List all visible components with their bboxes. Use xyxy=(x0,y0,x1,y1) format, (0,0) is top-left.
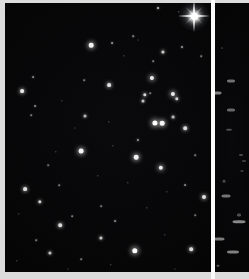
spectral-mark xyxy=(241,170,244,172)
star-point xyxy=(18,213,19,214)
star-point xyxy=(132,248,137,253)
star-point xyxy=(132,35,134,37)
star-point xyxy=(137,39,138,40)
star-point xyxy=(189,247,193,251)
spectral-mark xyxy=(217,265,220,267)
star-point xyxy=(142,100,145,103)
star-point xyxy=(38,200,41,203)
star-point xyxy=(149,92,151,94)
star-point xyxy=(97,175,98,176)
spectral-mark xyxy=(242,160,246,162)
star-point xyxy=(89,43,94,48)
star-point xyxy=(110,264,111,265)
spectral-mark xyxy=(223,180,226,183)
star-point xyxy=(152,120,157,125)
star-point xyxy=(108,121,109,122)
spectral-mark xyxy=(233,220,246,223)
spectral-mark xyxy=(237,213,241,216)
star-point xyxy=(16,260,17,261)
star-point xyxy=(84,115,87,118)
star-point xyxy=(61,100,62,101)
star-point xyxy=(146,207,147,208)
star-point xyxy=(123,55,124,56)
star-point xyxy=(164,234,165,235)
spectral-mark xyxy=(227,80,235,83)
star-point xyxy=(80,258,82,260)
spectral-mark xyxy=(215,237,225,240)
star-point xyxy=(32,76,34,78)
star-point xyxy=(181,46,183,48)
star-point xyxy=(67,268,68,269)
star-point xyxy=(114,220,116,222)
star-core xyxy=(191,13,198,20)
star-point xyxy=(99,236,102,239)
star-point xyxy=(58,184,60,186)
star-point xyxy=(166,191,167,192)
star-point xyxy=(157,7,159,9)
spectrum-strip-panel xyxy=(215,3,249,272)
star-point xyxy=(202,195,206,199)
spectral-mark xyxy=(222,195,231,198)
spectral-mark xyxy=(221,47,223,49)
star-point xyxy=(30,114,32,116)
star-point xyxy=(47,164,49,166)
star-point xyxy=(134,155,139,160)
star-point xyxy=(175,97,178,100)
star-point xyxy=(71,215,73,217)
star-point xyxy=(194,214,196,216)
star-point xyxy=(171,92,175,96)
star-point xyxy=(183,126,187,130)
star-point xyxy=(152,60,154,62)
spectral-mark xyxy=(227,109,235,112)
photographic-plate xyxy=(0,0,249,279)
star-point xyxy=(79,149,84,154)
star-point xyxy=(143,93,146,96)
star-point xyxy=(100,205,102,207)
star-point xyxy=(58,223,62,227)
star-point xyxy=(127,182,128,183)
spectral-mark xyxy=(215,91,222,94)
star-point xyxy=(55,151,56,152)
star-point xyxy=(111,42,113,44)
star-point xyxy=(160,121,165,126)
star-point xyxy=(107,83,111,87)
star-point xyxy=(83,79,85,81)
star-point xyxy=(48,251,51,254)
star-point xyxy=(194,154,196,156)
star-point xyxy=(184,184,186,186)
star-point xyxy=(159,166,163,170)
star-point xyxy=(112,145,113,146)
star-point xyxy=(23,187,27,191)
star-field-panel xyxy=(5,3,211,272)
spectral-mark xyxy=(227,250,239,253)
star-point xyxy=(35,239,37,241)
star-point xyxy=(34,105,36,107)
spectral-mark xyxy=(239,154,243,156)
star-point xyxy=(172,116,175,119)
star-point xyxy=(20,89,24,93)
star-point xyxy=(137,139,139,141)
star-point xyxy=(161,50,164,53)
spectral-mark xyxy=(226,129,232,131)
star-point xyxy=(200,55,202,57)
star-point xyxy=(74,127,75,128)
star-point xyxy=(150,76,154,80)
star-point xyxy=(174,268,175,269)
